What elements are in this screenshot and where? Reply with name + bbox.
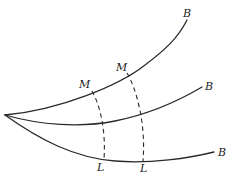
label-b-middle: B <box>204 80 213 93</box>
dashed-connector-1 <box>92 91 104 159</box>
label-m-2: M <box>115 61 128 74</box>
diagram-canvas: B B B M M L L <box>0 0 232 178</box>
label-b-lower: B <box>217 146 226 159</box>
label-l-2: L <box>139 162 147 175</box>
middle-curve <box>5 87 202 125</box>
label-b-upper: B <box>182 7 191 20</box>
label-l-1: L <box>96 161 104 174</box>
label-m-1: M <box>78 78 91 91</box>
